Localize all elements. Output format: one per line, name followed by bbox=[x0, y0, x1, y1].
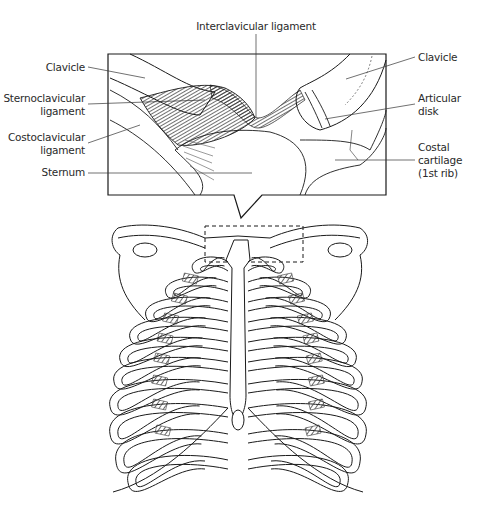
intercostal-shading bbox=[154, 353, 170, 364]
rib bbox=[248, 257, 284, 273]
label-line: ligament bbox=[0, 105, 85, 118]
label-left-clavicle: Clavicle bbox=[0, 61, 85, 74]
label-line: ligament bbox=[0, 144, 85, 157]
intercostal-shading bbox=[306, 353, 322, 364]
rib bbox=[248, 297, 330, 322]
intercostal-shading bbox=[308, 375, 324, 386]
label-articular-disk: Articular disk bbox=[418, 92, 461, 118]
costal-margin bbox=[248, 408, 363, 492]
rib bbox=[146, 297, 228, 322]
label-line: Costal bbox=[418, 141, 462, 154]
intercostal-shading bbox=[308, 399, 324, 410]
label-line: Clavicle bbox=[418, 51, 457, 64]
intercostal-shading bbox=[305, 425, 321, 436]
left-clavicle bbox=[118, 225, 238, 248]
inset-magnified-joint bbox=[108, 54, 386, 218]
inset-frame bbox=[108, 54, 386, 218]
sternum bbox=[226, 240, 250, 420]
label-sternoclavicular-ligament: Sternoclavicular ligament bbox=[0, 92, 85, 118]
intercostal-shading bbox=[157, 333, 173, 344]
rib bbox=[110, 404, 228, 444]
anatomy-diagram bbox=[0, 0, 477, 519]
right-scapula bbox=[335, 228, 368, 320]
label-line: Articular bbox=[418, 92, 461, 105]
intercostal-shading bbox=[297, 313, 313, 324]
label-line: Sternoclavicular bbox=[0, 92, 85, 105]
rib bbox=[114, 357, 228, 389]
label-line: Sternum bbox=[0, 166, 85, 179]
right-clavicle bbox=[238, 225, 360, 248]
rib bbox=[248, 357, 362, 389]
label-sternum: Sternum bbox=[0, 166, 85, 179]
intercostal-shading bbox=[303, 333, 319, 344]
xiphoid-process bbox=[232, 410, 244, 430]
intercostal-shading bbox=[163, 313, 179, 324]
label-interclavicular-ligament: Interclavicular ligament bbox=[176, 20, 336, 33]
left-scapula bbox=[112, 228, 145, 320]
intercostal-shading bbox=[182, 273, 198, 284]
rib bbox=[248, 404, 366, 444]
label-line: cartilage bbox=[418, 154, 462, 167]
intercostal-shading bbox=[152, 399, 168, 410]
rib bbox=[192, 257, 228, 273]
intercostal-shading bbox=[155, 425, 171, 436]
intercostal-shading bbox=[278, 273, 294, 284]
intercostal-shading bbox=[289, 293, 305, 304]
label-costoclavicular-ligament: Costoclavicular ligament bbox=[0, 131, 85, 157]
costal-margin bbox=[113, 408, 228, 492]
intercostal-shading bbox=[152, 375, 168, 386]
label-costal-cartilage: Costal cartilage (1st rib) bbox=[418, 141, 462, 180]
label-line: (1st rib) bbox=[418, 167, 462, 180]
label-line: Costoclavicular bbox=[0, 131, 85, 144]
intercostal-shading bbox=[171, 293, 187, 304]
label-line: disk bbox=[418, 105, 461, 118]
thoracic-cage bbox=[112, 225, 368, 430]
label-right-clavicle: Clavicle bbox=[418, 51, 457, 64]
label-line: Clavicle bbox=[0, 61, 85, 74]
